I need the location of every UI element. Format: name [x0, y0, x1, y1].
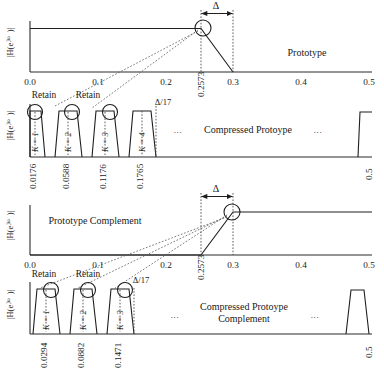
panel2-band-2-value: 0.0588	[61, 163, 71, 189]
panel2-band-4-value: 0.1765	[135, 163, 145, 189]
panel2-val-1-group: 0.0176	[28, 163, 38, 189]
panel4-edge-tick: 0.5	[364, 346, 374, 358]
panel4-ellipsis-right: ...	[311, 310, 320, 320]
panel1-leader-a	[92, 30, 198, 108]
panel2-ktag-2: K = 2	[64, 132, 73, 153]
panel2-val-4-group: 0.1765	[135, 163, 145, 189]
panel3-xtick-4: 0.4	[295, 260, 307, 270]
svg-text:)|: )|	[6, 110, 15, 115]
panel3-xtick-5: 0.5	[363, 260, 375, 270]
panel2-ktag-3: K = 3	[101, 132, 110, 153]
svg-text:|H(e: |H(e	[6, 43, 15, 58]
panel2-edge-band	[358, 112, 372, 157]
panel4-val-2-group: 0.0882	[76, 342, 86, 368]
panel4-band-1-value: 0.0294	[39, 342, 49, 368]
panel3-y-axis-label: |H(e jω )|	[5, 210, 15, 240]
panel4-ktag-3: K = 3	[116, 310, 125, 331]
panel2-delta-over-17: Δ/17	[155, 97, 172, 107]
svg-text:jω: jω	[5, 298, 11, 305]
panel4-title-line1: Compressed Protoype	[200, 301, 289, 312]
panel4-ellipsis-left: ...	[171, 310, 180, 320]
panel4-delta-over-17: Δ/17	[133, 275, 150, 285]
panel3-xtick-3: 0.3	[227, 260, 239, 270]
panel2-y-axis-label: |H(e jω )|	[5, 110, 15, 140]
panel1-y-axis-label: |H(e jω )|	[5, 27, 15, 57]
filter-response-figure: Δ |H(e jω )| Prototype 0.0 0.1 0.2 0.3 0…	[0, 0, 384, 372]
svg-text:|H(e: |H(e	[6, 126, 15, 141]
panel4-retain-label-2: Retain	[76, 269, 101, 279]
panel3-title: Prototype Complement	[48, 215, 141, 226]
panel-prototype: Δ |H(e jω )| Prototype 0.0 0.1 0.2 0.3 0…	[5, 0, 375, 108]
panel2-band-3-value: 0.1176	[98, 164, 108, 189]
panel2-ktag-4-group: K = 4	[138, 132, 147, 153]
panel4-ktag-3-group: K = 3	[116, 310, 125, 331]
panel3-special-tick-group: 0.2573	[196, 254, 206, 280]
panel1-special-tick: 0.2573	[196, 71, 206, 97]
panel1-xtick-2: 0.2	[160, 77, 172, 87]
panel1-xtick-1: 0.1	[92, 77, 104, 87]
panel4-title-line2: Complement	[218, 313, 270, 324]
panel2-ktag-3-group: K = 3	[101, 132, 110, 153]
panel4-ktag-1: K = 1	[42, 310, 51, 331]
panel-compressed-prototype: Retain Retain Δ/17 ... Compressed Protoy…	[5, 90, 374, 189]
svg-text:|H(e: |H(e	[6, 226, 15, 241]
panel1-delta-label: Δ	[213, 0, 220, 11]
svg-text:)|: )|	[6, 210, 15, 215]
panel4-band-3-value: 0.1471	[113, 342, 123, 368]
svg-text:jω: jω	[5, 219, 11, 226]
panel2-edge-tick: 0.5	[364, 168, 374, 180]
panel2-ktag-2-group: K = 2	[64, 132, 73, 153]
panel2-ellipsis-left: ...	[174, 125, 183, 135]
panel4-ktag-2-group: K = 2	[79, 310, 88, 331]
panel2-val-2-group: 0.0588	[61, 163, 71, 189]
panel1-xtick-4: 0.4	[295, 77, 307, 87]
panel4-val-1-group: 0.0294	[39, 342, 49, 368]
panel3-special-tick: 0.2573	[196, 254, 206, 280]
panel-compressed-prototype-complement: Retain Retain Δ/17 ... Compressed Protoy…	[5, 269, 374, 368]
panel1-xtick-3: 0.3	[227, 77, 239, 87]
svg-text:)|: )|	[6, 27, 15, 32]
panel2-ktag-1-group: K = 1	[31, 132, 40, 153]
panel2-title: Compressed Protoype	[204, 124, 293, 135]
figure-root: Δ |H(e jω )| Prototype 0.0 0.1 0.2 0.3 0…	[0, 0, 384, 372]
panel4-y-axis-label: |H(e jω )|	[5, 289, 15, 319]
panel4-band-2-value: 0.0882	[76, 342, 86, 368]
svg-text:)|: )|	[6, 289, 15, 294]
panel1-special-tick-group: 0.2573	[196, 71, 206, 97]
panel1-xtick-0: 0.0	[24, 77, 36, 87]
panel-prototype-complement: Δ |H(e jω )| Prototype Complement 0.0 0.…	[5, 183, 375, 288]
panel2-edge-tick-group: 0.5	[364, 168, 374, 180]
svg-text:jω: jω	[5, 119, 11, 126]
panel2-ktag-4: K = 4	[138, 132, 147, 153]
svg-text:|H(e: |H(e	[6, 305, 15, 320]
panel4-retain-label-1: Retain	[32, 269, 57, 279]
panel4-edge-tick-group: 0.5	[364, 346, 374, 358]
panel4-ktag-1-group: K = 1	[42, 310, 51, 331]
panel2-retain-label-1: Retain	[32, 90, 57, 100]
panel2-ellipsis-right: ...	[314, 125, 323, 135]
panel4-ktag-2: K = 2	[79, 310, 88, 331]
panel2-retain-label-2: Retain	[76, 90, 101, 100]
svg-text:jω: jω	[5, 36, 11, 43]
panel2-val-3-group: 0.1176	[98, 164, 108, 189]
panel2-band-1-value: 0.0176	[28, 163, 38, 189]
panel3-delta-label: Δ	[213, 183, 220, 194]
panel4-edge-band	[346, 290, 369, 334]
panel3-xtick-2: 0.2	[160, 260, 172, 270]
panel1-title: Prototype	[288, 47, 327, 58]
panel4-val-3-group: 0.1471	[113, 342, 123, 368]
panel2-ktag-1: K = 1	[31, 132, 40, 153]
panel1-xtick-5: 0.5	[363, 77, 375, 87]
